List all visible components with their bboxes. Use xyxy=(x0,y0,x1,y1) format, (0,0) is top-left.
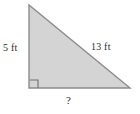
triangle-shape xyxy=(29,5,130,88)
triangle-figure: 5 ft 13 ft ? xyxy=(0,0,140,114)
label-hypotenuse: 13 ft xyxy=(91,42,111,52)
label-horizontal-leg-unknown: ? xyxy=(66,95,71,105)
label-vertical-leg: 5 ft xyxy=(3,43,17,53)
